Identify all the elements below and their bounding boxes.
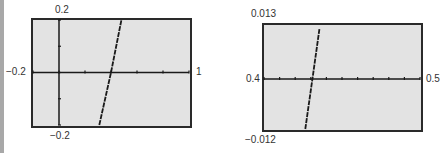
plot-area [0,0,448,153]
graph-window-2: 0.013 0.4 0.5 −0.012 [0,0,448,153]
